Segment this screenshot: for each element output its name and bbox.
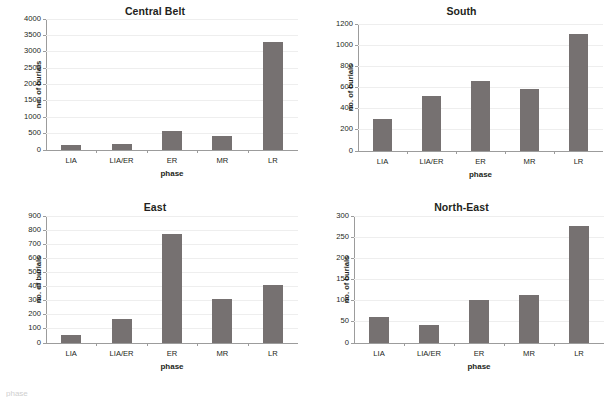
gridline — [358, 66, 603, 67]
y-axis-tick — [351, 343, 354, 344]
x-axis-tick — [197, 150, 198, 153]
x-axis-title: phase — [358, 170, 603, 179]
gridline — [46, 230, 298, 231]
y-axis-tick-label: 800 — [340, 62, 353, 70]
gridline — [46, 100, 298, 101]
x-axis-tick — [505, 151, 506, 154]
x-axis-tick-label: ER — [147, 156, 197, 165]
cut-off-caption: phase — [6, 389, 426, 397]
x-axis-tick-label: MR — [505, 157, 554, 166]
x-axis-title: phase — [354, 362, 604, 371]
y-axis-tick — [43, 230, 46, 231]
y-axis-tick — [355, 87, 358, 88]
y-axis-tick — [43, 68, 46, 69]
y-axis-tick — [43, 19, 46, 20]
y-axis-tick — [43, 150, 46, 151]
x-axis-tick — [404, 343, 405, 346]
y-axis-tick-label: 1500 — [24, 96, 41, 104]
y-axis-tick-label: 700 — [28, 240, 41, 248]
chart-panel-central-belt: Central Belt no. of burials phase 050010… — [0, 0, 310, 196]
y-axis-tick — [355, 129, 358, 130]
x-axis-tick — [248, 343, 249, 346]
y-axis-tick — [43, 100, 46, 101]
x-axis-tick-label: LIA/ER — [407, 157, 456, 166]
y-axis-line — [46, 216, 47, 343]
y-axis-tick-label: 0 — [349, 147, 353, 155]
bar — [263, 285, 283, 343]
bar — [569, 34, 589, 151]
gridline — [354, 258, 604, 259]
x-axis-tick-label: ER — [456, 157, 505, 166]
bar — [212, 136, 232, 150]
gridline — [46, 117, 298, 118]
y-axis-tick — [43, 117, 46, 118]
y-axis-tick-label: 800 — [28, 226, 41, 234]
y-axis-tick-label: 200 — [28, 310, 41, 318]
y-axis-tick-label: 100 — [336, 296, 349, 304]
y-axis-tick-label: 600 — [28, 254, 41, 262]
chart-title: East — [0, 201, 310, 213]
y-axis-tick-label: 300 — [336, 212, 349, 220]
x-axis-tick — [248, 150, 249, 153]
x-axis-tick — [407, 151, 408, 154]
bar — [162, 234, 182, 343]
y-axis-tick-label: 200 — [336, 254, 349, 262]
y-axis-tick — [43, 51, 46, 52]
y-axis-tick — [351, 216, 354, 217]
x-axis-title: phase — [46, 169, 298, 178]
bar — [422, 96, 442, 151]
y-axis-tick-label: 0 — [37, 339, 41, 347]
bar — [369, 317, 389, 343]
x-axis-tick — [147, 343, 148, 346]
x-axis-tick — [554, 343, 555, 346]
gridline — [46, 35, 298, 36]
plot-area — [46, 19, 298, 150]
x-axis-tick-label: LR — [248, 349, 298, 358]
x-axis-tick-label: ER — [147, 349, 197, 358]
y-axis-tick — [43, 343, 46, 344]
bar — [212, 299, 232, 343]
bar — [373, 119, 393, 151]
gridline — [354, 216, 604, 217]
y-axis-tick-label: 900 — [28, 212, 41, 220]
y-axis-tick-label: 500 — [28, 129, 41, 137]
y-axis-tick-label: 1000 — [24, 113, 41, 121]
y-axis-tick-label: 50 — [341, 317, 349, 325]
y-axis-tick — [355, 151, 358, 152]
y-axis-tick — [351, 321, 354, 322]
plot-area — [46, 216, 298, 343]
chart-title: North-East — [310, 201, 613, 213]
gridline — [46, 84, 298, 85]
y-axis-tick — [43, 258, 46, 259]
x-axis-tick — [96, 343, 97, 346]
bar — [263, 42, 283, 150]
bar — [569, 226, 589, 343]
y-axis-tick-label: 500 — [28, 268, 41, 276]
x-axis-tick — [456, 151, 457, 154]
y-axis-tick-label: 400 — [340, 104, 353, 112]
x-axis-tick-label: MR — [197, 349, 247, 358]
plot-area — [358, 24, 603, 151]
x-axis-tick-label: LIA — [358, 157, 407, 166]
x-axis-tick — [147, 150, 148, 153]
x-axis-tick-label: MR — [197, 156, 247, 165]
bar — [519, 295, 539, 343]
x-axis-tick-label: LIA — [354, 349, 404, 358]
x-axis-tick — [504, 343, 505, 346]
chart-panel-north-east: North-East no. of burials phase 05010015… — [310, 196, 613, 393]
bar — [61, 335, 81, 343]
gridline — [358, 45, 603, 46]
bar — [469, 300, 489, 343]
x-axis-tick-label: LR — [248, 156, 298, 165]
x-axis-tick — [96, 150, 97, 153]
y-axis-tick — [43, 286, 46, 287]
gridline — [46, 216, 298, 217]
y-axis-tick-label: 600 — [340, 83, 353, 91]
y-axis-tick — [351, 279, 354, 280]
y-axis-tick-label: 100 — [28, 324, 41, 332]
x-axis-title: phase — [46, 362, 298, 371]
x-axis-tick-label: LR — [554, 157, 603, 166]
y-axis-tick-label: 4000 — [24, 15, 41, 23]
x-axis-tick-label: LIA — [46, 349, 96, 358]
